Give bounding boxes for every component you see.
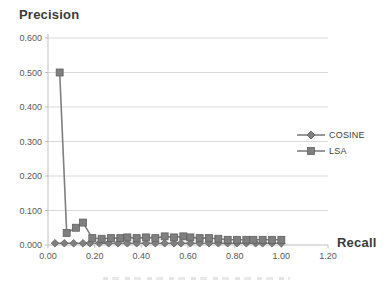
lsa-data-point (269, 236, 276, 243)
y-tick-label: 0.100 (2, 206, 42, 216)
lsa-data-point (250, 236, 257, 243)
y-tick-label: 0.000 (2, 240, 42, 250)
legend-entry-lsa: LSA (296, 146, 365, 156)
cosine-data-point (161, 239, 169, 247)
lsa-data-point (206, 235, 213, 242)
legend-label-cosine: COSINE (329, 130, 365, 140)
y-tick-label: 0.200 (2, 171, 42, 181)
lsa-data-point (161, 233, 168, 240)
cropped-caption-remnant (103, 277, 290, 280)
lsa-square-marker-icon (296, 146, 326, 156)
lsa-data-point (259, 236, 266, 243)
cosine-data-point (70, 239, 78, 247)
x-tick-label: 0.20 (75, 251, 115, 261)
lsa-data-point (133, 235, 140, 242)
legend-entry-cosine: COSINE (296, 130, 365, 140)
lsa-data-point (152, 235, 159, 242)
lsa-data-point (98, 235, 105, 242)
lsa-data-point (124, 234, 131, 241)
x-axis-title: Recall (337, 235, 377, 250)
lsa-data-point (56, 69, 63, 76)
precision-recall-chart: Precision Recall 0.0000.1000.2000.3000.4… (0, 0, 388, 282)
y-axis-title: Precision (19, 7, 79, 22)
y-tick-label: 0.500 (2, 68, 42, 78)
cosine-data-point (61, 239, 69, 247)
lsa-data-point (143, 234, 150, 241)
lsa-data-point (243, 236, 250, 243)
cosine-data-point (177, 239, 185, 247)
lsa-data-point (89, 235, 96, 242)
lsa-data-point (180, 233, 187, 240)
lsa-data-point (224, 236, 231, 243)
lsa-data-point (171, 234, 178, 241)
y-tick-label: 0.400 (2, 102, 42, 112)
lsa-data-point (278, 236, 285, 243)
cosine-data-point (51, 239, 59, 247)
lsa-data-point (234, 236, 241, 243)
lsa-data-point (117, 235, 124, 242)
y-tick-label: 0.300 (2, 137, 42, 147)
x-tick-label: 1.20 (308, 251, 348, 261)
series-line-lsa (60, 73, 282, 240)
lsa-data-point (80, 219, 87, 226)
x-tick-label: 0.00 (28, 251, 68, 261)
x-tick-label: 0.80 (215, 251, 255, 261)
lsa-data-point (63, 229, 70, 236)
lsa-data-point (196, 235, 203, 242)
x-tick-label: 0.60 (168, 251, 208, 261)
legend-label-lsa: LSA (329, 146, 347, 156)
chart-legend: COSINE LSA (296, 130, 365, 156)
lsa-data-point (187, 234, 194, 241)
x-tick-label: 1.00 (261, 251, 301, 261)
lsa-data-point (73, 224, 80, 231)
x-tick-label: 0.40 (121, 251, 161, 261)
y-tick-label: 0.600 (2, 33, 42, 43)
lsa-data-point (108, 235, 115, 242)
lsa-data-point (215, 235, 222, 242)
cosine-diamond-marker-icon (296, 130, 326, 140)
